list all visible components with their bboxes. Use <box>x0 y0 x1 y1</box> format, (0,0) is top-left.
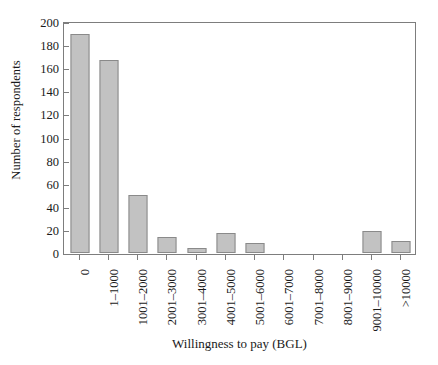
x-axis-tick-label: 7001–8000 <box>313 262 326 318</box>
bar[interactable] <box>363 231 382 253</box>
bar[interactable] <box>246 243 265 253</box>
bar-slot <box>358 24 387 253</box>
x-axis-tick-mark <box>283 255 284 260</box>
x-axis-tick-label: 1–1000 <box>108 262 121 300</box>
x-axis-tick-mark <box>254 255 255 260</box>
x-axis-tick-mark <box>342 255 343 260</box>
bar-slot <box>387 24 416 253</box>
bar-slot <box>299 24 328 253</box>
y-axis-tick-label: 80 <box>0 155 59 168</box>
y-axis-tick-label: 40 <box>0 202 59 215</box>
x-axis-tick-mark <box>313 255 314 260</box>
x-axis-tick-mark <box>79 255 80 260</box>
y-axis-tick-label: 120 <box>0 109 59 122</box>
x-axis-tick-label: 3001–4000 <box>196 262 209 318</box>
y-axis-tick-mark <box>64 254 69 255</box>
bar[interactable] <box>187 248 206 253</box>
x-axis-tick-label: 0 <box>79 262 92 268</box>
bar[interactable] <box>216 233 235 253</box>
x-axis-tick-label: 2001–3000 <box>166 262 179 318</box>
bar-slot <box>182 24 211 253</box>
bar-slot <box>94 24 123 253</box>
y-axis-tick-label: 140 <box>0 86 59 99</box>
y-axis-tick-label: 180 <box>0 40 59 53</box>
plot-area <box>63 22 416 255</box>
bar-slot <box>124 24 153 253</box>
x-axis-tick-mark <box>400 255 401 260</box>
x-axis-title: Willingness to pay (BGL) <box>63 336 416 352</box>
bar[interactable] <box>392 241 411 253</box>
bar[interactable] <box>158 237 177 253</box>
bar[interactable] <box>70 34 89 253</box>
x-axis-tick-mark <box>196 255 197 260</box>
y-axis-tick-label: 0 <box>0 248 59 261</box>
x-axis-tick-mark <box>225 255 226 260</box>
x-axis-tick-label: 8001–9000 <box>342 262 355 318</box>
bar-slot <box>65 24 94 253</box>
x-axis-tick-label: 5001–6000 <box>254 262 267 318</box>
x-axis-tick-label: 1001–2000 <box>137 262 150 318</box>
bar-series <box>65 24 414 253</box>
x-axis-tick-mark <box>166 255 167 260</box>
y-axis-tick-label: 160 <box>0 63 59 76</box>
bar-slot <box>241 24 270 253</box>
x-axis-tick-label: >10000 <box>400 262 413 300</box>
x-axis-tick-label: 6001–7000 <box>283 262 296 318</box>
bar[interactable] <box>129 195 148 253</box>
y-axis-tick-label: 60 <box>0 178 59 191</box>
bar-slot <box>328 24 357 253</box>
y-axis-tick-label: 20 <box>0 225 59 238</box>
bar-slot <box>270 24 299 253</box>
bar-slot <box>211 24 240 253</box>
x-axis-tick-mark <box>371 255 372 260</box>
y-axis-tick-label: 100 <box>0 132 59 145</box>
x-axis-tick-label: 9001–10000 <box>371 262 384 325</box>
x-axis-tick-mark <box>108 255 109 260</box>
bar-slot <box>153 24 182 253</box>
bar-chart-figure: Number of respondents 020406080100120140… <box>0 0 438 365</box>
x-axis-tick-label: 4001–5000 <box>225 262 238 318</box>
bar[interactable] <box>99 60 118 253</box>
y-axis-tick-label: 200 <box>0 17 59 30</box>
x-axis-tick-mark <box>137 255 138 260</box>
